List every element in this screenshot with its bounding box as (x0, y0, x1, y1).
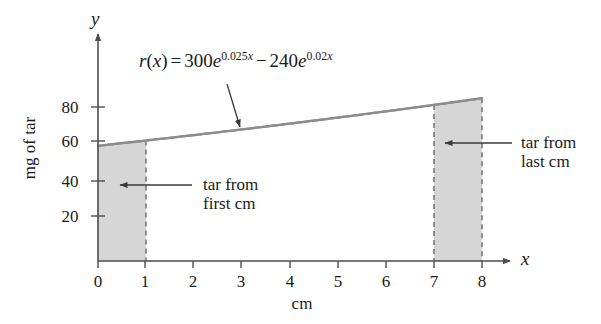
x-tick-label-5: 5 (323, 272, 353, 291)
annotation-first-cm-line1: tar from (203, 175, 258, 194)
y-tick-label-60: 60 (55, 132, 85, 151)
x-tick-label-8: 8 (467, 272, 497, 291)
x-axis-ticks (98, 261, 482, 268)
equation-leader-arrow (227, 84, 240, 127)
x-tick-label-3: 3 (226, 272, 256, 291)
x-tick-label-4: 4 (275, 272, 305, 291)
equation-coef-1: 300 (184, 50, 213, 71)
annotation-last-cm-line1: tar from (521, 133, 576, 152)
equation-base-1: e (213, 50, 221, 71)
x-tick-label-1: 1 (130, 272, 160, 291)
annotation-last-cm-line2: last cm (521, 152, 576, 171)
x-tick-label-2: 2 (178, 272, 208, 291)
y-tick-label-20: 20 (55, 207, 85, 226)
tar-rate-figure: r(x)=300e0.025x−240e0.02x y x mg of tar … (0, 0, 601, 324)
equation-arg: x (153, 50, 161, 71)
shaded-region-last-cm (434, 98, 482, 261)
annotation-last-cm: tar from last cm (521, 133, 576, 171)
annotation-first-cm-line2: first cm (203, 194, 258, 213)
y-tick-label-40: 40 (55, 172, 85, 191)
x-tick-label-6: 6 (371, 272, 401, 291)
x-tick-label-7: 7 (419, 272, 449, 291)
curve-rx-smooth (98, 98, 482, 146)
annotation-first-cm: tar from first cm (203, 175, 258, 213)
equation-coef-2: 240 (270, 50, 299, 71)
equation-label: r(x)=300e0.025x−240e0.02x (139, 50, 332, 72)
equation-exp-2-num: 0.02 (307, 50, 328, 63)
equation-base-2: e (298, 50, 306, 71)
equation-exp-2-var: x (327, 50, 332, 63)
y-tick-label-80: 80 (55, 98, 85, 117)
x-axis-caption: cm (272, 294, 332, 313)
y-axis-caption: mg of tar (20, 83, 40, 213)
x-axis-variable-label: x (521, 248, 529, 269)
y-axis-variable-label: y (91, 8, 99, 29)
equation-exp-1-num: 0.025 (221, 50, 247, 63)
equation-operator: − (253, 50, 270, 71)
shaded-region-first-cm (98, 141, 146, 261)
equation-equals: = (168, 50, 185, 71)
x-tick-label-0: 0 (83, 272, 113, 291)
